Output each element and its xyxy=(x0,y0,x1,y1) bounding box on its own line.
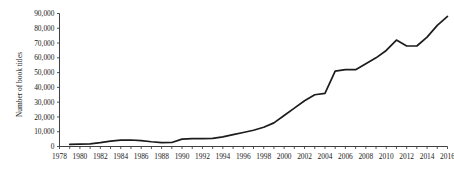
x-tick-label: 1982 xyxy=(93,152,108,161)
y-tick-label: 70,000 xyxy=(34,39,55,48)
x-tick-label: 1994 xyxy=(215,152,230,161)
y-tick-label: 10,000 xyxy=(34,127,55,136)
x-tick-label: 1984 xyxy=(113,152,128,161)
x-tick-label: 1986 xyxy=(134,152,149,161)
y-tick-label: 90,000 xyxy=(34,9,55,18)
x-tick-label: 1998 xyxy=(256,152,271,161)
y-axis-title-group: Number of book titles xyxy=(15,52,24,117)
y-tick-label: 60,000 xyxy=(34,53,55,62)
y-axis-title: Number of book titles xyxy=(15,52,24,117)
x-tick-label: 1996 xyxy=(236,152,251,161)
x-tick-label: 2012 xyxy=(399,152,414,161)
x-tick-label: 2014 xyxy=(420,152,435,161)
line-chart: Number of book titles 010,00020,00030,00… xyxy=(0,0,454,176)
y-tick-label: 0 xyxy=(51,142,55,151)
x-tick-label: 1990 xyxy=(175,152,190,161)
x-tick-label: 2002 xyxy=(297,152,312,161)
x-tick-label: 2000 xyxy=(277,152,292,161)
x-tick-label: 2006 xyxy=(338,152,353,161)
x-tick-label: 1992 xyxy=(195,152,210,161)
x-tick-label: 1988 xyxy=(154,152,169,161)
y-axis-tick-labels: 010,00020,00030,00040,00050,00060,00070,… xyxy=(34,9,55,151)
x-tick-label: 2016 xyxy=(440,152,454,161)
data-series-line xyxy=(70,16,448,144)
chart-container: Number of book titles 010,00020,00030,00… xyxy=(0,0,454,176)
x-tick-label: 1980 xyxy=(73,152,88,161)
x-axis-tick-labels: 1978198019821984198619881990199219941996… xyxy=(52,152,454,161)
y-tick-label: 30,000 xyxy=(34,98,55,107)
y-tick-label: 50,000 xyxy=(34,68,55,77)
x-tick-label: 1978 xyxy=(52,152,67,161)
x-tick-label: 2004 xyxy=(318,152,333,161)
x-tick-label: 2010 xyxy=(379,152,394,161)
x-tick-label: 2008 xyxy=(358,152,373,161)
y-tick-label: 40,000 xyxy=(34,83,55,92)
y-tick-label: 20,000 xyxy=(34,113,55,122)
y-tick-label: 80,000 xyxy=(34,24,55,33)
